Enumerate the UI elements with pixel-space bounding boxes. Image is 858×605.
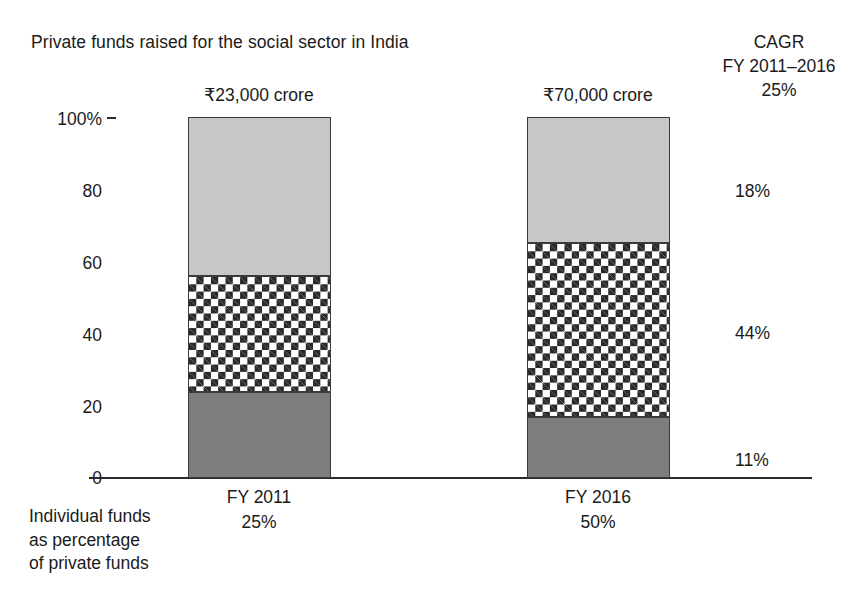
bar-fy2011-segment-dark[interactable] [188, 392, 331, 478]
y-tick-label-40: 40 [22, 327, 102, 345]
bar-fy2011[interactable] [188, 117, 331, 478]
bar-fy2016-segment-dark[interactable] [527, 417, 670, 478]
bar-fy2016-segment-light[interactable] [527, 117, 670, 243]
x-axis-label-fy2016: FY 2016 50% [478, 485, 718, 535]
y-tick-label-60: 60 [22, 255, 102, 273]
bar-fy2011-segment-light[interactable] [188, 117, 331, 276]
x-axis-label-fy2016-name: FY 2016 [478, 485, 718, 510]
y-axis-tick-100 [107, 117, 116, 119]
bar-fy2016-segment-checkerboard[interactable] [527, 243, 670, 417]
chart-figure: Private funds raised for the social sect… [0, 0, 858, 605]
footnote-line2: as percentage [29, 529, 239, 553]
y-tick-label-20: 20 [22, 399, 102, 417]
y-tick-label-80: 80 [22, 183, 102, 201]
y-tick-label-100: 100% [22, 111, 102, 129]
footnote-line3: of private funds [29, 552, 239, 576]
bar-fy2016[interactable] [527, 117, 670, 478]
x-axis-label-fy2016-percent: 50% [478, 510, 718, 535]
cagr-value-checkerboard-segment: 44% [735, 325, 805, 343]
footnote-line1: Individual funds [29, 505, 239, 529]
bar-fy2011-segment-checkerboard[interactable] [188, 276, 331, 392]
cagr-value-dark-segment: 11% [735, 452, 805, 470]
cagr-value-light-segment: 18% [735, 183, 805, 201]
footnote: Individual funds as percentage of privat… [29, 505, 239, 576]
